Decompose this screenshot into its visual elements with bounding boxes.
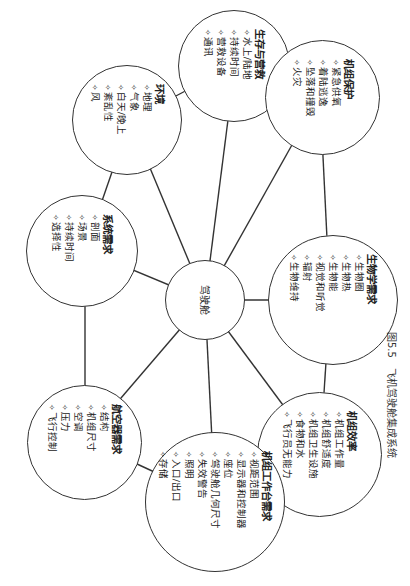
node-title: 环境 bbox=[153, 84, 166, 104]
node-item: 视觉和听觉 bbox=[314, 254, 327, 312]
node-item: 生物维持 bbox=[288, 254, 301, 312]
node-item: 机组工作量 bbox=[333, 411, 346, 479]
node-item: 选择性 bbox=[50, 214, 63, 262]
node-item: 机组尺寸 bbox=[85, 404, 98, 452]
node-item: 风 bbox=[88, 84, 101, 135]
cockpit-integration-diagram: 驾驶舱 生存与营救 水上/陆地 持续时间 营救设备 通讯 机组保护 紧急供氧 着… bbox=[0, 0, 410, 586]
node-item: 白天/晚上 bbox=[114, 84, 127, 135]
node-item: 气象 bbox=[127, 84, 140, 135]
node-item: 飞行控制 bbox=[46, 404, 59, 452]
node-item: 食物和水 bbox=[294, 411, 307, 479]
node-title: 机组保护 bbox=[342, 59, 355, 99]
node-item: 地理 bbox=[140, 84, 153, 135]
node-biological-needs: 生物学需求 生物圈 生物热 生物能 视觉和听觉 辐射 生物维持 bbox=[268, 235, 398, 365]
node-item: 视距范围 bbox=[248, 451, 261, 529]
node-title: 航空器需求 bbox=[111, 404, 124, 454]
node-item: 驾驶舱几何尺寸 bbox=[209, 451, 222, 529]
node-item: 水上/陆地 bbox=[241, 29, 254, 80]
node-item: 紧急供氧 bbox=[329, 59, 342, 117]
figure-caption: 图5.5飞机驾驶舱集成系统 bbox=[385, 332, 400, 458]
node-item: 飞行员无能力 bbox=[281, 411, 294, 479]
node-item: 座位 bbox=[222, 451, 235, 529]
node-item: 生物热 bbox=[340, 254, 353, 312]
node-title: 生物学需求 bbox=[366, 254, 379, 304]
node-aircraft-requirements: 航空器需求 结构 机组尺寸 空调 压力 飞行控制 bbox=[27, 385, 142, 500]
node-system-requirements: 系统需求 剖面 场景 持续时间 选择性 bbox=[26, 195, 138, 307]
node-item: 生物能 bbox=[327, 254, 340, 312]
node-item: 机组舒适度 bbox=[320, 411, 333, 479]
node-item: 通讯 bbox=[202, 29, 215, 80]
node-item: 照明 bbox=[183, 451, 196, 529]
node-item: 持续时间 bbox=[228, 29, 241, 80]
node-item: 剖面 bbox=[89, 214, 102, 262]
node-item: 压力 bbox=[59, 404, 72, 452]
node-crew-workstation: 机组工作台需求 视距范围 显示器和控制器 座位 驾驶舱几何尺寸 失效警告 照明 … bbox=[145, 432, 285, 572]
node-item: 结构 bbox=[98, 404, 111, 452]
node-item: 紊乱性 bbox=[101, 84, 114, 135]
node-title: 机组效率 bbox=[346, 411, 359, 451]
node-item: 显示器和控制器 bbox=[235, 451, 248, 529]
node-item: 持续时间 bbox=[63, 214, 76, 262]
node-item: 辐射 bbox=[301, 254, 314, 312]
node-item: 空调 bbox=[72, 404, 85, 452]
node-crew-protection: 机组保护 紧急供氧 着陆逃逸 坠落和撞毁 火灾 bbox=[265, 40, 380, 155]
node-item: 机组卫生设施 bbox=[307, 411, 320, 479]
node-item: 坠落和撞毁 bbox=[303, 59, 316, 117]
node-environment: 环境 地理 气象 白天/晚上 紊乱性 风 bbox=[72, 65, 182, 175]
node-title: 生存与营救 bbox=[254, 29, 267, 79]
center-node-cockpit: 驾驶舱 bbox=[165, 260, 245, 340]
node-item: 生物圈 bbox=[353, 254, 366, 312]
node-item: 火灾 bbox=[290, 59, 303, 117]
node-item: 入口/出口 bbox=[170, 451, 183, 529]
node-item: 失效警告 bbox=[196, 451, 209, 529]
caption-text: 飞机驾驶舱集成系统 bbox=[386, 368, 397, 458]
node-title: 系统需求 bbox=[102, 214, 115, 254]
node-item: 场景 bbox=[76, 214, 89, 262]
caption-number: 图5.5 bbox=[386, 332, 397, 358]
node-item: 存储 bbox=[157, 451, 170, 529]
center-label: 驾驶舱 bbox=[199, 285, 212, 315]
node-item: 营救设备 bbox=[215, 29, 228, 80]
node-item: 着陆逃逸 bbox=[316, 59, 329, 117]
node-title: 机组工作台需求 bbox=[261, 451, 274, 521]
